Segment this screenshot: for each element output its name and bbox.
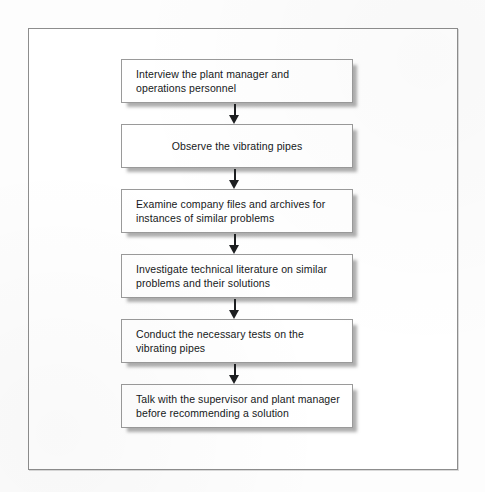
flow-step-2: Observe the vibrating pipes bbox=[121, 124, 367, 168]
process-box-2-label: Observe the vibrating pipes bbox=[172, 139, 303, 153]
flow-step-4: Investigate technical literature on simi… bbox=[121, 254, 367, 298]
connector-arrow-4 bbox=[121, 298, 353, 319]
connector-arrow-5 bbox=[121, 363, 353, 384]
figure-frame: Interview the plant manager and operatio… bbox=[28, 28, 458, 470]
process-box-4[interactable]: Investigate technical literature on simi… bbox=[121, 254, 353, 298]
process-box-1[interactable]: Interview the plant manager and operatio… bbox=[121, 59, 353, 103]
process-box-3[interactable]: Examine company files and archives for i… bbox=[121, 189, 353, 233]
flow-step-3: Examine company files and archives for i… bbox=[121, 189, 367, 233]
arrow-head-icon bbox=[229, 115, 239, 124]
connector-arrow-1 bbox=[121, 103, 353, 124]
flow-step-5: Conduct the necessary tests on the vibra… bbox=[121, 319, 367, 363]
connector-arrow-2 bbox=[121, 168, 353, 189]
arrow-head-icon bbox=[229, 310, 239, 319]
flow-step-1: Interview the plant manager and operatio… bbox=[121, 59, 367, 103]
process-box-5[interactable]: Conduct the necessary tests on the vibra… bbox=[121, 319, 353, 363]
process-box-5-label: Conduct the necessary tests on the vibra… bbox=[136, 327, 304, 355]
process-box-4-label: Investigate technical literature on simi… bbox=[136, 262, 327, 290]
process-box-1-label: Interview the plant manager and operatio… bbox=[136, 67, 289, 95]
scanned-page: Interview the plant manager and operatio… bbox=[0, 0, 485, 492]
process-box-6[interactable]: Talk with the supervisor and plant manag… bbox=[121, 384, 353, 428]
arrow-head-icon bbox=[229, 375, 239, 384]
arrow-head-icon bbox=[229, 180, 239, 189]
flow-step-6: Talk with the supervisor and plant manag… bbox=[121, 384, 367, 428]
process-box-2[interactable]: Observe the vibrating pipes bbox=[121, 124, 353, 168]
process-box-3-label: Examine company files and archives for i… bbox=[136, 197, 325, 225]
arrow-head-icon bbox=[229, 245, 239, 254]
process-box-6-label: Talk with the supervisor and plant manag… bbox=[136, 392, 340, 420]
flowchart: Interview the plant manager and operatio… bbox=[121, 59, 367, 428]
connector-arrow-3 bbox=[121, 233, 353, 254]
